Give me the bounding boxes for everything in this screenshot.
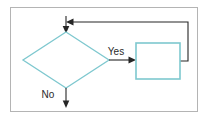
no-arrowhead-down-icon [63,101,70,109]
edge-yes [109,57,136,64]
loopback-arrowhead-left-icon [66,19,74,26]
edge-entry [63,16,70,34]
edge-no [63,88,70,108]
diagram-canvas: Yes No [0,0,209,127]
yes-arrowhead-right-icon [129,57,137,64]
edge-label-no: No [42,89,55,100]
decision-diamond-node[interactable] [23,32,109,88]
edge-label-yes: Yes [108,46,124,57]
process-rectangle-node[interactable] [136,43,180,79]
flowchart-diagram: Yes No [0,0,209,127]
